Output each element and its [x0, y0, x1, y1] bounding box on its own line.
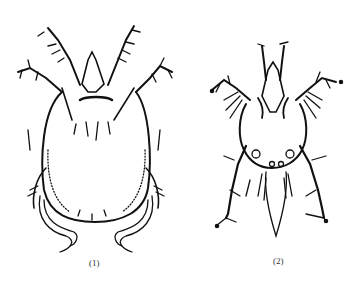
mite-1-drawing: [0, 0, 200, 286]
figure-label-1: (1): [89, 258, 100, 268]
mite-illustration-1: [0, 0, 200, 286]
figure-label-2: (2): [273, 256, 284, 266]
mite-illustration-2: [180, 0, 362, 286]
mite-2-drawing: [180, 0, 362, 286]
